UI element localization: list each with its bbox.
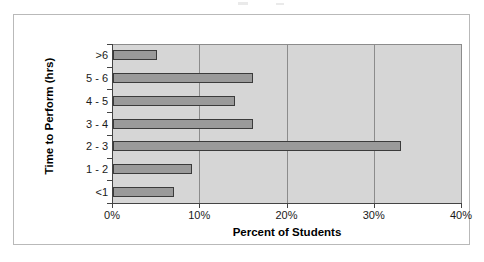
x-tick-label: 40% (439, 209, 483, 221)
gridline-40% (461, 44, 462, 203)
bar (113, 164, 192, 174)
bar (113, 141, 401, 151)
figure-frame: 0%10%20%30%40% >65 - 64 - 53 - 42 - 31 -… (13, 14, 470, 245)
y-tick-label: 3 - 4 (56, 118, 108, 130)
x-tick (199, 204, 200, 208)
x-tick-label: 20% (265, 209, 309, 221)
x-tick-label: 10% (177, 209, 221, 221)
x-axis-title: Percent of Students (112, 226, 462, 238)
bar (113, 96, 235, 106)
gridline-20% (287, 44, 288, 203)
y-tick-label: 2 - 3 (56, 140, 108, 152)
y-axis-title: Time to Perform (hrs) (43, 31, 55, 201)
x-tick-label: 0% (90, 209, 134, 221)
bar (113, 187, 174, 197)
bar (113, 50, 157, 60)
bar (113, 73, 253, 83)
bar (113, 119, 253, 129)
x-tick-label: 30% (352, 209, 396, 221)
y-tick-label: 5 - 6 (56, 72, 108, 84)
x-tick (461, 204, 462, 208)
y-axis-tick-labels: >65 - 64 - 53 - 42 - 31 - 2<1 (48, 44, 108, 203)
y-tick-label: 1 - 2 (56, 163, 108, 175)
scan-artifact (238, 2, 248, 5)
chart-screenshot: 0%10%20%30%40% >65 - 64 - 53 - 42 - 31 -… (0, 0, 484, 262)
y-tick (107, 203, 112, 204)
gridline-30% (374, 44, 375, 203)
x-tick (287, 204, 288, 208)
y-tick-label: <1 (56, 186, 108, 198)
x-tick (112, 204, 113, 208)
x-tick (374, 204, 375, 208)
scan-artifact (276, 3, 284, 5)
y-tick-label: 4 - 5 (56, 95, 108, 107)
y-tick-label: >6 (56, 49, 108, 61)
